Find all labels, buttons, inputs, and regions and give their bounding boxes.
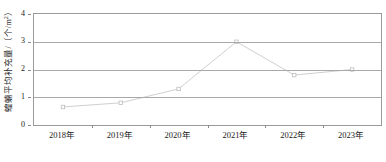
y-axis-tick-mark (28, 70, 31, 71)
y-axis-tick-label: 4 (21, 9, 25, 18)
y-axis-tick-mark (28, 97, 31, 98)
caption-strip (0, 158, 386, 162)
x-axis-tick-label: 2021年 (222, 128, 248, 140)
y-axis-tick-label: 0 (21, 120, 25, 129)
x-axis-tick-label: 2018年 (49, 128, 75, 140)
y-axis-title: 蝗蝻平均补充量/（个/m2） (1, 0, 14, 122)
y-axis-tick-label: 3 (21, 36, 25, 45)
x-axis-tick-label: 2020年 (165, 128, 191, 140)
line-chart: 蝗蝻平均补充量/（个/m2） 01234 2018年2019年2020年2021… (0, 0, 386, 162)
data-point-marker (61, 105, 64, 108)
data-point-marker (177, 87, 180, 90)
x-axis-tick-mark (208, 125, 209, 128)
x-axis-tick-mark (265, 125, 266, 128)
y-axis-tick-mark (28, 125, 31, 126)
y-axis-title-exponent: 2 (3, 16, 9, 19)
x-axis-tick-label: 2023年 (338, 128, 364, 140)
gridline (34, 42, 381, 43)
x-axis-tick-label: 2022年 (280, 128, 306, 140)
gridline (34, 97, 381, 98)
data-point-marker (293, 73, 296, 76)
y-axis-tick-label: 1 (21, 92, 25, 101)
data-point-marker (119, 101, 122, 104)
gridline (34, 70, 381, 71)
x-axis-tick-mark (323, 125, 324, 128)
x-axis-tick-label: 2019年 (107, 128, 133, 140)
y-axis-tick-mark (28, 42, 31, 43)
plot-area: 01234 (33, 13, 382, 126)
y-axis-title-tail: ） (3, 7, 13, 16)
y-axis-tick-label: 2 (21, 64, 25, 73)
x-axis-tick-mark (150, 125, 151, 128)
y-axis-title-text: 蝗蝻平均补充量/（个/m (3, 19, 13, 111)
x-axis-tick-mark (92, 125, 93, 128)
y-axis-tick-mark (28, 14, 31, 15)
